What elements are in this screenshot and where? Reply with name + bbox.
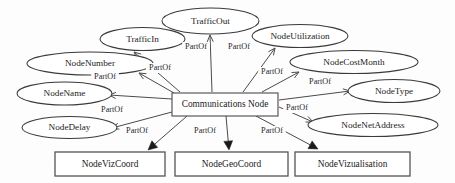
node-node-number[interactable]: NodeNumber bbox=[27, 52, 153, 75]
partof-diagram: TrafficOutTrafficInNodeUtilizationNodeNu… bbox=[0, 0, 455, 183]
node-number-label: NodeNumber bbox=[65, 58, 115, 68]
edge-label-text: PartOf bbox=[309, 77, 331, 86]
node-communications-node[interactable]: Communications Node bbox=[172, 93, 278, 116]
edge-line bbox=[226, 116, 228, 141]
node-node-vizualisation[interactable]: NodeVizualisation bbox=[295, 152, 410, 176]
edge-label-text: PartOf bbox=[286, 103, 308, 112]
node-type-label: NodeType bbox=[375, 86, 413, 96]
node-node-utilization[interactable]: NodeUtilization bbox=[252, 25, 348, 48]
edge-label-node-cost-month: PartOf bbox=[258, 67, 286, 77]
edge-node-viz-coord[interactable] bbox=[148, 116, 187, 150]
node-node-net-address[interactable]: NodeNetAddress bbox=[308, 114, 438, 137]
node-name-label: NodeName bbox=[44, 88, 86, 98]
edge-label-text: PartOf bbox=[261, 126, 283, 135]
node-node-viz-coord[interactable]: NodeVizCoord bbox=[55, 152, 165, 176]
edge-node-number[interactable] bbox=[139, 73, 174, 93]
edge-node-name[interactable] bbox=[109, 92, 172, 99]
edge-label-node-number: PartOf bbox=[146, 63, 174, 73]
edge-label-text: PartOf bbox=[261, 67, 283, 76]
traffic-in-label: TrafficIn bbox=[126, 34, 159, 44]
edge-label-text: PartOf bbox=[194, 126, 216, 135]
edge-node-type[interactable] bbox=[279, 89, 350, 100]
edge-label-text: PartOf bbox=[228, 42, 250, 51]
edge-label-node-utilization: PartOf bbox=[225, 42, 253, 52]
edge-label-traffic-out: PartOf bbox=[182, 42, 210, 52]
arrowhead-solid bbox=[148, 141, 158, 150]
nodes-layer: TrafficOutTrafficInNodeUtilizationNodeNu… bbox=[17, 8, 440, 176]
edge-label-node-type: PartOf bbox=[306, 77, 334, 87]
edge-line bbox=[210, 35, 212, 92]
edge-node-geo-coord[interactable] bbox=[224, 116, 233, 150]
node-traffic-out[interactable]: TrafficOut bbox=[162, 8, 259, 34]
arrowhead-solid bbox=[224, 141, 233, 150]
node-viz-coord-label: NodeVizCoord bbox=[82, 159, 139, 169]
edge-line bbox=[109, 95, 172, 99]
node-node-delay[interactable]: NodeDelay bbox=[22, 117, 117, 139]
node-cost-month-label: NodeCostMonth bbox=[323, 57, 385, 67]
edge-label-node-viz-coord: PartOf bbox=[123, 126, 151, 136]
traffic-out-label: TrafficOut bbox=[191, 16, 230, 26]
node-traffic-in[interactable]: TrafficIn bbox=[100, 28, 185, 51]
node-node-geo-coord[interactable]: NodeGeoCoord bbox=[175, 152, 288, 176]
communications-node-label: Communications Node bbox=[182, 99, 269, 109]
node-vizualisation-label: NodeVizualisation bbox=[318, 159, 388, 169]
edge-label-node-net-address: PartOf bbox=[283, 103, 311, 113]
edge-label-node-name: PartOf bbox=[91, 72, 119, 82]
edge-label-text: PartOf bbox=[101, 105, 123, 114]
edge-label-text: PartOf bbox=[126, 126, 148, 135]
node-node-cost-month[interactable]: NodeCostMonth bbox=[290, 51, 418, 74]
edge-line bbox=[155, 116, 187, 144]
node-node-type[interactable]: NodeType bbox=[348, 80, 440, 103]
node-net-address-label: NodeNetAddress bbox=[341, 120, 405, 130]
arrowhead-open bbox=[139, 73, 146, 79]
node-utilization-label: NodeUtilization bbox=[270, 31, 330, 41]
edge-label-text: PartOf bbox=[185, 42, 207, 51]
edge-label-node-delay: PartOf bbox=[98, 105, 126, 115]
node-geo-coord-label: NodeGeoCoord bbox=[202, 159, 262, 169]
edge-label-node-geo-coord: PartOf bbox=[191, 126, 219, 136]
edge-label-text: PartOf bbox=[94, 72, 116, 81]
node-delay-label: NodeDelay bbox=[49, 122, 91, 132]
edge-label-text: PartOf bbox=[149, 63, 171, 72]
node-node-name[interactable]: NodeName bbox=[17, 82, 112, 105]
diagram-canvas: TrafficOutTrafficInNodeUtilizationNodeNu… bbox=[0, 0, 455, 183]
edge-label-node-vizualisation: PartOf bbox=[258, 126, 286, 136]
edge-line bbox=[139, 73, 174, 93]
edge-line bbox=[279, 91, 350, 100]
